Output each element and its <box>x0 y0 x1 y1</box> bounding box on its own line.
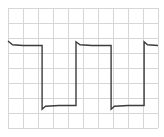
waveform-plot <box>0 0 164 137</box>
grid <box>8 8 159 129</box>
